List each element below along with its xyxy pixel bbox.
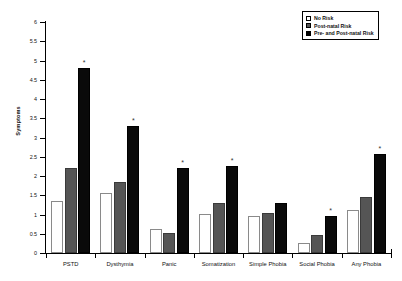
y-axis-tick-label: 1.5 [30,192,37,198]
bar-group: * [51,22,90,253]
y-axis-tick-label: 0 [34,250,37,256]
bar[interactable] [100,193,112,253]
significance-marker: * [374,145,386,152]
y-axis-tick-label: 1 [34,212,37,218]
plot-area: ****** [46,22,391,253]
significance-marker: * [78,59,90,66]
bar[interactable] [347,210,359,253]
bar[interactable] [127,126,139,253]
bar[interactable] [163,233,175,253]
legend-swatch-icon [306,23,311,28]
x-axis-tick [243,253,244,258]
bar[interactable] [275,203,287,253]
significance-marker: * [325,207,337,214]
bar-chart: Symptoms 00.511.522.533.544.555.56 *****… [0,0,402,281]
bar[interactable] [311,235,323,253]
x-axis-tick [95,253,96,258]
bar[interactable] [248,216,260,253]
bar[interactable] [199,214,211,253]
x-axis-tick [391,253,392,258]
y-axis-tick-label: 3.5 [30,115,37,121]
bar[interactable] [360,197,372,253]
legend-swatch-icon [306,16,311,21]
x-axis-tick [292,253,293,258]
chart-legend: No RiskPost-natal RiskPre- and Post-nata… [302,11,379,40]
y-axis-tick-label: 2.5 [30,154,37,160]
bar[interactable] [177,168,189,253]
bar[interactable] [262,213,274,253]
x-axis-tick [145,253,146,258]
y-axis-tick-label: 6 [34,19,37,25]
y-axis-tick-label: 0.5 [30,231,37,237]
bar[interactable] [226,166,238,253]
significance-marker: * [127,117,139,124]
y-axis-tick-label: 5 [34,58,37,64]
bar[interactable] [150,229,162,253]
bar[interactable] [213,203,225,253]
bar[interactable] [325,216,337,253]
bar-group: * [150,22,189,253]
bar-group: * [100,22,139,253]
bar-group [248,22,287,253]
bar-group: * [199,22,238,253]
legend-label: Post-natal Risk [314,23,351,29]
y-axis-tick-label: 4.5 [30,77,37,83]
bar[interactable] [65,168,77,253]
bar[interactable] [51,201,63,253]
legend-label: Pre- and Post-natal Risk [314,30,374,36]
y-axis-title: Symptoms [15,91,21,151]
y-axis-tick-label: 4 [34,96,37,102]
x-axis-line [45,253,392,254]
bar-group: * [347,22,386,253]
x-axis-tick [342,253,343,258]
significance-marker: * [177,159,189,166]
legend-swatch-icon [306,31,311,36]
bar[interactable] [78,68,90,253]
bar[interactable] [298,243,310,253]
x-axis-tick-label: Any Phobia [326,261,402,268]
y-axis-tick-label: 2 [34,173,37,179]
y-axis-tick-label: 5.5 [30,38,37,44]
y-axis-tick-label: 3 [34,135,37,141]
x-axis-tick [46,253,47,258]
bar[interactable] [374,154,386,253]
bar[interactable] [114,182,126,253]
x-axis-tick [194,253,195,258]
legend-item[interactable]: No Risk [306,15,374,22]
legend-item[interactable]: Pre- and Post-natal Risk [306,30,374,37]
legend-label: No Risk [314,15,333,21]
legend-item[interactable]: Post-natal Risk [306,22,374,29]
significance-marker: * [226,157,238,164]
bar-group: * [298,22,337,253]
